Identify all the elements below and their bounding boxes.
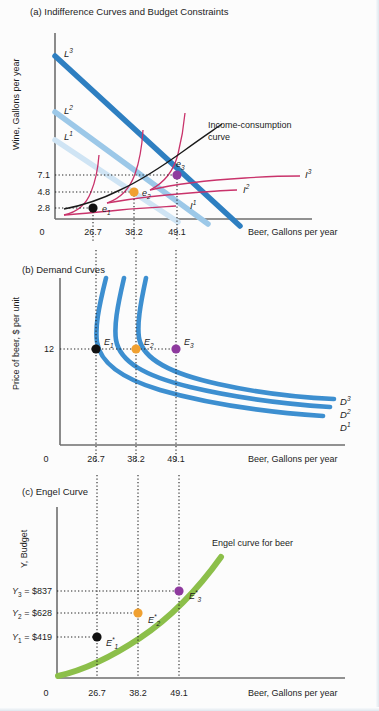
- panel-c-ytick-0: Y3 = $837: [12, 586, 52, 598]
- demand-label-D2: D2: [340, 408, 351, 420]
- panel-a-ylabel: Wine, Gallons per year: [11, 58, 21, 150]
- panel-a-xlabel: Beer, Gallons per year: [248, 227, 338, 237]
- point-label-E1-star: E*1: [106, 636, 119, 650]
- panel-c-ylabel: Y, Budget: [19, 529, 29, 568]
- point-e2[interactable]: [129, 187, 138, 196]
- panel-b-ytick-0: 12: [44, 344, 54, 354]
- panel-a-xtick-1: 38.2: [125, 227, 143, 237]
- panel-b-xtick-1: 38.2: [127, 454, 145, 464]
- budget-label-L1: L1: [64, 130, 73, 142]
- income-consumption-annot-line2: curve: [208, 132, 230, 142]
- demand-label-D3: D3: [340, 395, 351, 407]
- point-label-e1: e1: [102, 204, 111, 216]
- point-e3[interactable]: [172, 170, 181, 179]
- panel-c-engel-curve: (c) Engel Curve Y, Budget Y3 = $837 Y2 =…: [0, 475, 379, 711]
- panel-c-xtick-1: 38.2: [129, 688, 147, 698]
- panel-b-ylabel: Price of beer, $ per unit: [11, 296, 21, 390]
- point-label-E3: E3: [184, 337, 194, 349]
- panel-a-xtick-0: 26.7: [84, 227, 102, 237]
- figure-container: (a) Indifference Curves and Budget Const…: [0, 0, 379, 711]
- point-E2[interactable]: [131, 344, 140, 353]
- indifference-curve-I3-lower: [150, 176, 300, 190]
- panel-a-ytick-0: 7.1: [37, 170, 50, 180]
- panel-c-title: (c) Engel Curve: [22, 486, 88, 497]
- panel-b-title: (b) Demand Curves: [22, 264, 105, 275]
- panel-b-origin: 0: [43, 454, 48, 464]
- point-e1[interactable]: [88, 203, 97, 212]
- panel-c-xlabel: Beer, Gallons per year: [248, 688, 338, 698]
- point-E3-star[interactable]: [174, 586, 183, 595]
- panel-b-xlabel: Beer, Gallons per year: [248, 454, 338, 464]
- panel-c-origin: 0: [43, 688, 48, 698]
- page-edge-bottom: [0, 707, 379, 711]
- panel-a-ytick-1: 4.8: [37, 187, 50, 197]
- engel-curve-label: Engel curve for beer: [212, 538, 293, 548]
- panel-b-demand-curves: (b) Demand Curves Price of beer, $ per u…: [0, 250, 379, 475]
- point-label-E2: E2: [144, 337, 154, 349]
- income-consumption-annot-line1: Income-consumption: [208, 120, 292, 130]
- demand-label-D1: D1: [340, 421, 351, 433]
- budget-label-L3: L3: [64, 47, 73, 59]
- panel-c-svg: (c) Engel Curve Y, Budget Y3 = $837 Y2 =…: [0, 475, 379, 711]
- panel-b-svg: (b) Demand Curves Price of beer, $ per u…: [0, 250, 379, 475]
- indifference-label-I1: I1: [190, 199, 197, 211]
- indifference-label-I3: I3: [305, 168, 312, 180]
- panel-a-xtick-2: 49.1: [168, 227, 186, 237]
- panel-c-xtick-0: 26.7: [88, 688, 106, 698]
- panel-c-ytick-1: Y2 = $628: [12, 608, 52, 620]
- page-edge-right: [375, 0, 379, 711]
- panel-a-ytick-2: 2.8: [37, 203, 50, 213]
- panel-c-ytick-2: Y1 = $419: [12, 632, 52, 644]
- point-label-E1: E1: [104, 337, 114, 349]
- panel-a-indifference-curves: (a) Indifference Curves and Budget Const…: [0, 0, 379, 250]
- budget-label-L2: L2: [64, 104, 73, 116]
- panel-b-xtick-2: 49.1: [167, 454, 185, 464]
- panel-c-xtick-2: 49.1: [170, 688, 188, 698]
- point-E1-star[interactable]: [92, 632, 101, 641]
- point-E2-star[interactable]: [133, 608, 142, 617]
- panel-a-origin: 0: [39, 227, 44, 237]
- point-E1[interactable]: [91, 344, 100, 353]
- panel-b-xtick-0: 26.7: [87, 454, 105, 464]
- point-label-E3-star: E*3: [189, 589, 202, 603]
- indifference-label-I2: I2: [243, 183, 250, 195]
- panel-a-svg: (a) Indifference Curves and Budget Const…: [0, 0, 379, 250]
- panel-a-title: (a) Indifference Curves and Budget Const…: [30, 6, 229, 17]
- point-E3[interactable]: [171, 344, 180, 353]
